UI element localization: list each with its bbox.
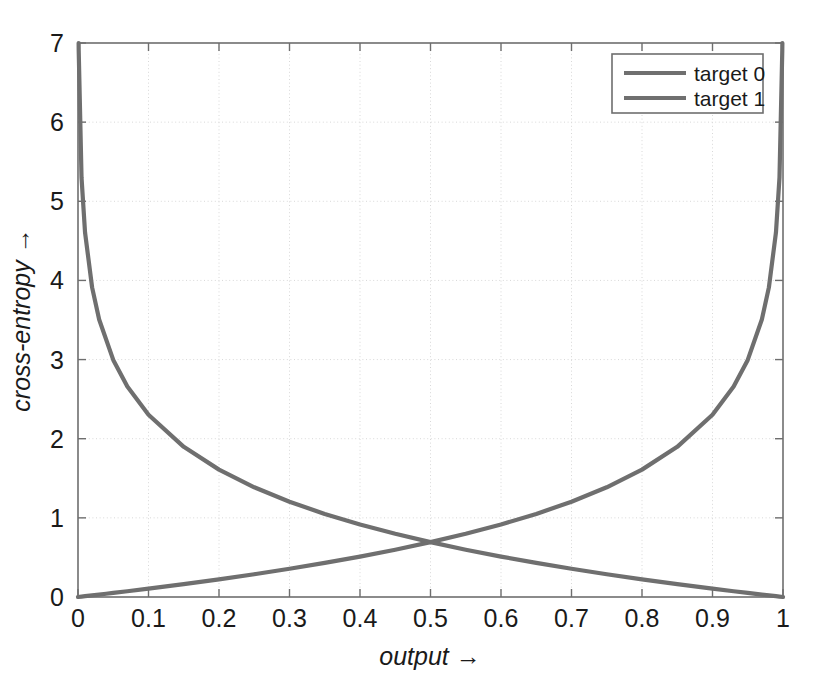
x-tick-label: 0.7 — [554, 604, 589, 632]
x-tick-label: 0.2 — [202, 604, 237, 632]
y-tick-label: 4 — [50, 266, 64, 294]
y-axis-title: cross-entropy → — [7, 228, 35, 411]
y-tick-label: 7 — [50, 29, 64, 57]
x-tick-label: 1 — [776, 604, 790, 632]
x-tick-label: 0.6 — [484, 604, 519, 632]
y-tick-label: 6 — [50, 108, 64, 136]
x-tick-label: 0.8 — [625, 604, 660, 632]
x-tick-label: 0.9 — [695, 604, 730, 632]
legend-label-target-0: target 0 — [694, 62, 765, 85]
y-tick-label: 5 — [50, 187, 64, 215]
y-tick-label: 3 — [50, 346, 64, 374]
x-tick-label: 0.3 — [272, 604, 307, 632]
x-tick-label: 0 — [71, 604, 85, 632]
x-tick-label: 0.1 — [131, 604, 166, 632]
x-axis-title: output → — [379, 642, 480, 670]
x-tick-label: 0.4 — [343, 604, 378, 632]
x-tick-label: 0.5 — [413, 604, 448, 632]
y-tick-label: 0 — [50, 583, 64, 611]
chart-legend[interactable]: target 0 target 1 — [612, 54, 765, 113]
legend-label-target-1: target 1 — [694, 87, 765, 110]
chart-figure: 00.10.20.30.40.50.60.70.80.91 01234567 o… — [0, 0, 813, 691]
y-tick-label: 2 — [50, 425, 64, 453]
y-tick-label: 1 — [50, 504, 64, 532]
cross-entropy-line-chart: 00.10.20.30.40.50.60.70.80.91 01234567 o… — [0, 0, 813, 691]
